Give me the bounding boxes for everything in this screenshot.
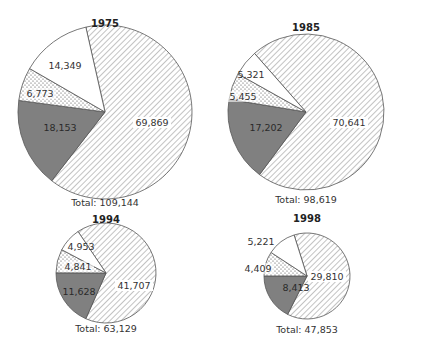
slice-label-dotted: 4,409 xyxy=(244,263,271,274)
slice-label-hatched: 29,810 xyxy=(310,271,343,282)
pie-title: 1994 xyxy=(92,214,120,225)
slice-label-white: 14,349 xyxy=(48,60,81,71)
pie-total: Total: 63,129 xyxy=(74,323,137,334)
slice-label-dark: 18,153 xyxy=(43,122,76,133)
slice-label-dark: 11,628 xyxy=(62,286,95,297)
slice-label-dark: 8,413 xyxy=(282,282,309,293)
slice-label-white: 5,221 xyxy=(247,236,274,247)
pie-chart-1975: 69,86918,1536,77314,3491975Total: 109,14… xyxy=(18,18,192,208)
pie-total: Total: 109,144 xyxy=(70,197,139,208)
charts-root: 69,86918,1536,77314,3491975Total: 109,14… xyxy=(18,18,384,335)
pie-chart-1994: 41,70711,6284,8414,9531994Total: 63,129 xyxy=(56,214,156,334)
slice-label-white: 4,953 xyxy=(67,241,94,252)
pie-total: Total: 98,619 xyxy=(274,194,337,205)
slice-label-dotted: 4,841 xyxy=(64,261,91,272)
slice-label-hatched: 70,641 xyxy=(332,117,365,128)
pie-title: 1998 xyxy=(293,213,321,224)
pie-title: 1985 xyxy=(292,22,320,33)
slice-label-hatched: 69,869 xyxy=(135,117,168,128)
slice-label-dotted: 6,773 xyxy=(26,88,53,99)
slice-label-dotted: 5,455 xyxy=(229,91,256,102)
pie-chart-1985: 70,64117,2025,4555,3211985Total: 98,619 xyxy=(227,22,384,205)
pie-title: 1975 xyxy=(91,18,119,29)
slice-label-hatched: 41,707 xyxy=(117,280,150,291)
pie-charts-figure: 69,86918,1536,77314,3491975Total: 109,14… xyxy=(0,0,426,353)
pie-chart-1998: 29,8108,4134,4095,2211998Total: 47,853 xyxy=(242,213,350,335)
pie-total: Total: 47,853 xyxy=(275,324,338,335)
slice-label-dark: 17,202 xyxy=(249,122,282,133)
slice-label-white: 5,321 xyxy=(237,69,264,80)
